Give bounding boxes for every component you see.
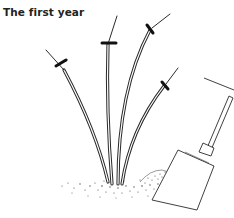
stem-center-left	[102, 16, 117, 184]
illustration-figure: The first year	[0, 0, 234, 218]
stems	[46, 14, 178, 184]
spade	[152, 78, 234, 210]
stem-left	[46, 50, 108, 182]
pruned-shrub-drawing	[0, 0, 234, 218]
